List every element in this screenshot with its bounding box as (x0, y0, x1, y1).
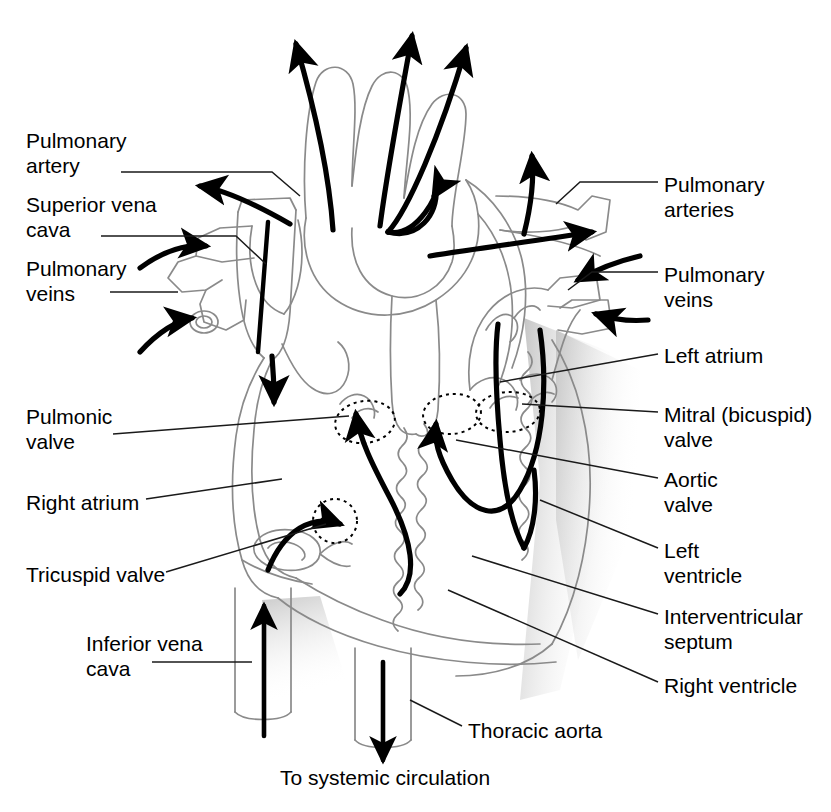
label-line: Pulmonary (664, 173, 764, 196)
label-line: Left atrium (664, 344, 763, 367)
label-line: valve (26, 430, 75, 453)
arrow-tricuspid-flow (268, 521, 340, 570)
label-line: Pulmonic (26, 405, 112, 428)
label-line: cava (26, 218, 70, 241)
label-mitral-bicuspid-valve: Mitral (bicuspid)valve (664, 402, 812, 452)
shading-layer (262, 318, 640, 700)
label-line: Right atrium (26, 491, 139, 514)
label-pulmonary-artery: Pulmonaryartery (26, 128, 126, 178)
arrow-right-atrium-down (272, 356, 274, 402)
label-left-atrium: Left atrium (664, 343, 763, 368)
label-right-ventricle: Right ventricle (664, 673, 797, 698)
arrow-left-atrium-down (496, 324, 524, 548)
label-line: Left (664, 539, 699, 562)
heart-anatomy-figure: Pulmonaryartery Superior venacava Pulmon… (0, 0, 831, 812)
leader-pulmonic-valve (113, 416, 349, 434)
label-line: Inferior vena (86, 632, 203, 655)
label-line: arteries (664, 198, 734, 221)
arrow-pulmonary-trunk-left (200, 186, 290, 224)
arrow-brachiocephalic-up (296, 44, 333, 230)
leader-right-atrium (146, 479, 282, 499)
label-left-ventricle: Leftventricle (664, 538, 742, 588)
label-line: Right ventricle (664, 674, 797, 697)
label-line: ventricle (664, 564, 742, 587)
label-line: Pulmonary (26, 129, 126, 152)
label-line: artery (26, 154, 80, 177)
label-to-systemic-circulation: To systemic circulation (280, 765, 490, 790)
label-line: veins (664, 288, 713, 311)
label-line: valve (664, 428, 713, 451)
label-line: Tricuspid valve (26, 563, 165, 586)
label-right-atrium: Right atrium (26, 490, 139, 515)
label-line: Aortic (664, 468, 718, 491)
label-line: veins (26, 282, 75, 305)
label-line: valve (664, 493, 713, 516)
arrow-pulmonary-artery-up (524, 156, 533, 234)
label-line: Pulmonary (26, 257, 126, 280)
label-interventricular-septum: Interventricularseptum (664, 604, 803, 654)
label-superior-vena-cava: Superior venacava (26, 192, 157, 242)
label-tricuspid-valve: Tricuspid valve (26, 562, 165, 587)
label-pulmonary-veins: Pulmonaryveins (26, 256, 126, 306)
label-line: Superior vena (26, 193, 157, 216)
label-inferior-vena-cava: Inferior venacava (86, 631, 203, 681)
leader-pulmonary-arteries (556, 182, 658, 204)
label-line: Interventricular (664, 605, 803, 628)
label-aortic-valve: Aorticvalve (664, 467, 718, 517)
label-line: septum (664, 630, 733, 653)
leader-thoracic-aorta (410, 700, 462, 726)
label-line: To systemic circulation (280, 766, 490, 789)
arrow-pulmonary-vein-left-in (140, 318, 192, 352)
label-line: cava (86, 657, 130, 680)
label-thoracic-aorta: Thoracic aorta (468, 718, 602, 743)
arrow-left-ventricle-out (436, 330, 544, 511)
aortic-valve-marker (421, 391, 483, 437)
label-line: Pulmonary (664, 263, 764, 286)
arrow-pulmonary-vein-right-in2 (596, 314, 648, 321)
label-pulmonary-arteries: Pulmonaryarteries (664, 172, 764, 222)
arrow-right-ventricle-out (356, 414, 411, 594)
label-line: Thoracic aorta (468, 719, 602, 742)
label-pulmonary-veins-right: Pulmonaryveins (664, 262, 764, 312)
label-pulmonic-valve: Pulmonicvalve (26, 404, 112, 454)
label-line: Mitral (bicuspid) (664, 403, 812, 426)
